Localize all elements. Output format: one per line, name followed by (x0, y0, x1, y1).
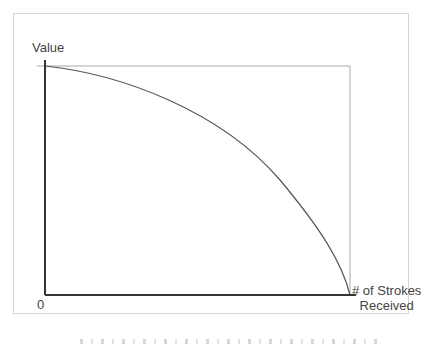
origin-label: 0 (37, 297, 44, 312)
y-axis-label: Value (32, 40, 64, 55)
cut-off-caption (80, 339, 380, 344)
x-axis-label-line2: Received (352, 298, 421, 313)
value-curve (45, 66, 350, 295)
x-axis-label-line1: # of Strokes (352, 283, 421, 298)
x-axis-label: # of Strokes Received (352, 283, 421, 313)
